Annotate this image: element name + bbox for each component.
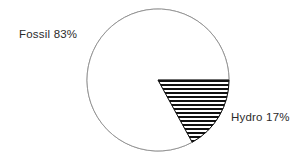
pie-chart-svg bbox=[0, 0, 307, 164]
pie-chart-figure: Fossil 83% Hydro 17% bbox=[0, 0, 307, 164]
pie-label-fossil: Fossil 83% bbox=[19, 29, 77, 41]
pie-label-hydro: Hydro 17% bbox=[231, 112, 290, 124]
